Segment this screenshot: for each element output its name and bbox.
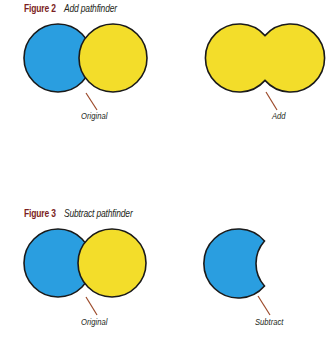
fig3-subtract-shape — [204, 229, 265, 298]
fig2-original-shape — [24, 24, 147, 92]
yellow-union-shape — [205, 24, 324, 92]
fig3-original-shape — [24, 229, 146, 297]
fig3-subtract-label: Subtract — [255, 317, 284, 327]
fig2-add-label: Add — [272, 111, 286, 121]
fig3-original-leader-line — [86, 297, 97, 315]
fig2-original-leader-line — [86, 93, 97, 110]
diagram-canvas — [0, 0, 326, 358]
fig2-add-leader-line — [266, 92, 277, 110]
yellow-circle — [78, 229, 146, 297]
fig2-add-shape — [205, 24, 324, 92]
yellow-circle — [79, 24, 147, 92]
fig3-subtract-leader-line — [258, 296, 270, 315]
fig3-original-label: Original — [81, 317, 107, 327]
fig2-original-label: Original — [81, 111, 107, 121]
blue-crescent-shape — [204, 229, 265, 298]
